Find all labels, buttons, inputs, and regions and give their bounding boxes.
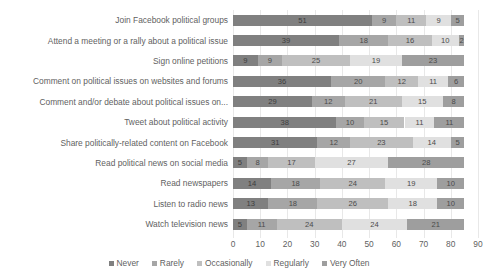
bar-segment: 15 <box>364 117 405 128</box>
bar-segment-value: 19 <box>350 55 402 66</box>
bar-segment: 6 <box>448 76 464 87</box>
bar-segment: 5 <box>451 137 465 148</box>
bar-segment: 9 <box>258 55 283 66</box>
bar-segment-value: 9 <box>258 55 283 66</box>
bar-segment: 26 <box>317 198 388 209</box>
bar-segment-value: 31 <box>233 137 317 148</box>
bar-segment-value: 5 <box>451 15 465 26</box>
bar-segment: 12 <box>317 137 350 148</box>
bar-segment: 10 <box>437 198 464 209</box>
x-axis-tick: 10 <box>256 238 265 250</box>
x-axis-tick: 40 <box>337 238 346 250</box>
category-label: Read newspapers <box>0 178 233 188</box>
bar-segment: 24 <box>342 219 407 230</box>
gridline <box>478 10 479 238</box>
bar-segment-value: 18 <box>268 198 317 209</box>
bar-segment: 11 <box>434 117 464 128</box>
bar-segment: 13 <box>233 198 268 209</box>
legend-item[interactable]: Very Often <box>322 258 370 268</box>
bar-segment-value: 18 <box>388 198 437 209</box>
category-label: Comment and/or debate about political is… <box>0 97 233 107</box>
legend-swatch-icon <box>152 261 157 266</box>
bar-segment: 10 <box>437 178 464 189</box>
bar-segment: 12 <box>385 76 418 87</box>
bar-segment: 27 <box>315 157 389 168</box>
legend-item[interactable]: Regularly <box>266 258 309 268</box>
legend-swatch-icon <box>109 261 114 266</box>
legend-label: Regularly <box>274 258 309 268</box>
bar-row: Comment on political issues on websites … <box>0 71 478 91</box>
bar-segment-value: 20 <box>331 76 385 87</box>
bar-row: Share politically-related content on Fac… <box>0 132 478 152</box>
bar-segment-value: 2 <box>459 35 464 46</box>
bar-segment-value: 5 <box>451 137 465 148</box>
bar-segment: 17 <box>268 157 314 168</box>
x-axis-tick: 0 <box>231 238 236 250</box>
bar-segment: 8 <box>247 157 269 168</box>
legend-swatch-icon <box>266 261 271 266</box>
bar-segment: 20 <box>331 76 385 87</box>
x-axis: 0102030405060708090 <box>233 238 478 252</box>
category-label: Attend a meeting or a rally about a poli… <box>0 36 233 46</box>
bar-segment: 19 <box>385 178 437 189</box>
bar-segment-value: 5 <box>233 157 247 168</box>
bar-segment-value: 11 <box>418 76 448 87</box>
bar-segment-value: 23 <box>402 55 465 66</box>
bar-segment-value: 16 <box>388 35 432 46</box>
bar-segment-value: 21 <box>345 96 402 107</box>
category-label: Listen to radio news <box>0 199 233 209</box>
bar-segment-value: 24 <box>342 219 407 230</box>
bar-segment: 11 <box>396 15 426 26</box>
bar-segment-value: 25 <box>282 55 350 66</box>
bar-segment-value: 12 <box>317 137 350 148</box>
bar-segment-value: 14 <box>233 178 271 189</box>
bar-segment: 18 <box>388 198 437 209</box>
bar-track: 1318261810 <box>233 198 478 209</box>
legend-item[interactable]: Rarely <box>152 258 184 268</box>
bar-segment: 11 <box>247 219 277 230</box>
legend-item[interactable]: Never <box>109 258 139 268</box>
bar-track: 99251923 <box>233 55 478 66</box>
x-axis-tick: 20 <box>283 238 292 250</box>
bar-row: Attend a meeting or a rally about a poli… <box>0 30 478 50</box>
legend-item[interactable]: Occasionally <box>197 258 252 268</box>
bar-segment: 24 <box>277 219 342 230</box>
bar-segment-value: 12 <box>312 96 345 107</box>
bar-segment: 14 <box>413 137 451 148</box>
bar-segment: 9 <box>372 15 397 26</box>
bar-segment: 16 <box>388 35 432 46</box>
bar-row: Listen to radio news1318261810 <box>0 194 478 214</box>
bar-segment-value: 18 <box>339 35 388 46</box>
bar-segment: 11 <box>418 76 448 87</box>
category-label: Join Facebook political groups <box>0 15 233 25</box>
bar-segment: 10 <box>432 35 459 46</box>
bar-segment: 21 <box>407 219 464 230</box>
bar-segment-value: 11 <box>396 15 426 26</box>
bar-segment: 29 <box>233 96 312 107</box>
bar-segment: 9 <box>233 55 258 66</box>
category-label: Watch television news <box>0 219 233 229</box>
bar-segment: 12 <box>312 96 345 107</box>
bar-segment-value: 29 <box>233 96 312 107</box>
bar-segment-value: 9 <box>426 15 451 26</box>
bar-segment: 11 <box>405 117 435 128</box>
bar-row: Read newspapers1418241910 <box>0 173 478 193</box>
bar-segment-value: 24 <box>277 219 342 230</box>
legend-swatch-icon <box>322 261 327 266</box>
bar-segment-value: 15 <box>364 117 405 128</box>
x-axis-tick: 50 <box>364 238 373 250</box>
bar-segment: 39 <box>233 35 339 46</box>
bar-track: 362012116 <box>233 76 478 87</box>
bar-segment-value: 39 <box>233 35 339 46</box>
bar-segment-value: 10 <box>437 178 464 189</box>
bar-segment: 15 <box>402 96 443 107</box>
x-axis-tick: 60 <box>392 238 401 250</box>
bar-segment: 18 <box>271 178 320 189</box>
bar-track: 291221158 <box>233 96 478 107</box>
bar-segment: 31 <box>233 137 317 148</box>
category-label: Sign online petitions <box>0 56 233 66</box>
bar-segment: 38 <box>233 117 336 128</box>
bar-segment-value: 6 <box>448 76 464 87</box>
legend-label: Occasionally <box>205 258 252 268</box>
